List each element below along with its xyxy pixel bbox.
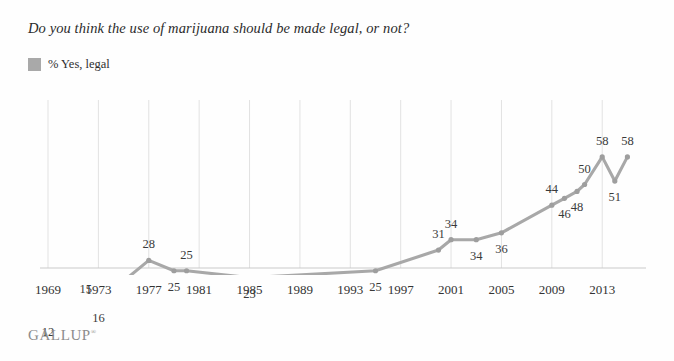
plot-area — [0, 95, 674, 275]
gallup-logo: GALLUP® — [28, 327, 97, 344]
line-chart-svg — [0, 95, 674, 275]
data-point-2011.6 — [582, 182, 587, 187]
data-point-2011 — [574, 189, 579, 194]
x-tick-2001: 2001 — [438, 283, 464, 296]
point-value-label-1979: 25 — [168, 281, 181, 294]
data-point-2014 — [612, 178, 617, 183]
series-line-yes-legal — [48, 157, 627, 275]
x-tick-1989: 1989 — [287, 283, 313, 296]
x-tick-1981: 1981 — [186, 283, 212, 296]
data-point-2001 — [448, 237, 453, 242]
point-value-label-1977: 28 — [143, 238, 156, 251]
legend-swatch-icon — [28, 58, 41, 71]
x-tick-1973: 1973 — [85, 283, 111, 296]
data-point-1979 — [171, 268, 176, 273]
data-point-1980 — [184, 268, 189, 273]
data-point-2000 — [436, 247, 441, 252]
chart-title: Do you think the use of marijuana should… — [28, 20, 409, 37]
data-point-2010 — [562, 196, 567, 201]
point-value-label-2015: 58 — [621, 135, 634, 148]
gallup-trademark-mark: ® — [91, 328, 97, 336]
data-point-1977 — [146, 258, 151, 263]
gallup-chart-card: Do you think the use of marijuana should… — [0, 0, 674, 361]
x-tick-2009: 2009 — [539, 283, 565, 296]
x-tick-2013: 2013 — [589, 283, 615, 296]
point-value-label-2014: 51 — [609, 191, 622, 204]
point-value-label-2001: 34 — [445, 218, 458, 231]
point-value-label-2011.6: 50 — [578, 163, 591, 176]
point-value-label-1973: 16 — [92, 312, 105, 325]
point-value-label-2013: 58 — [596, 135, 609, 148]
chart-legend: % Yes, legal — [28, 57, 110, 72]
data-point-2009 — [549, 203, 554, 208]
point-value-label-1995: 25 — [369, 281, 382, 294]
series-dots-group — [45, 154, 630, 275]
gallup-wordmark: GALLUP — [28, 327, 91, 343]
point-value-label-2000: 31 — [432, 228, 445, 241]
data-point-2013 — [600, 154, 605, 159]
data-point-1995 — [373, 268, 378, 273]
x-tick-1993: 1993 — [337, 283, 363, 296]
x-tick-1997: 1997 — [388, 283, 414, 296]
x-tick-1969: 1969 — [35, 283, 61, 296]
data-point-2015 — [625, 154, 630, 159]
legend-label: % Yes, legal — [48, 57, 110, 72]
gridlines-group — [48, 100, 602, 268]
point-value-label-2003: 34 — [470, 250, 483, 263]
x-tick-1985: 1985 — [237, 283, 263, 296]
point-value-label-2005: 36 — [495, 243, 508, 256]
point-value-label-1980: 25 — [180, 249, 193, 262]
x-tick-2005: 2005 — [488, 283, 514, 296]
data-point-2005 — [499, 230, 504, 235]
point-value-label-2009: 44 — [546, 183, 559, 196]
point-value-label-2010: 46 — [558, 208, 571, 221]
x-tick-1977: 1977 — [136, 283, 162, 296]
point-value-label-2011: 48 — [571, 201, 584, 214]
data-point-2003 — [474, 237, 479, 242]
